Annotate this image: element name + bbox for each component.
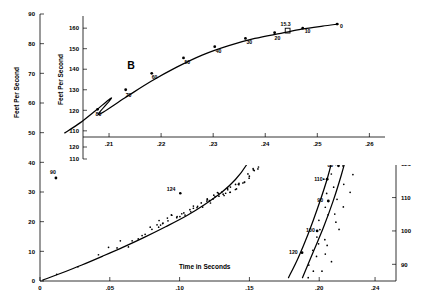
- chart-svg: 0102030405060708090901001101201301401501…: [0, 0, 433, 305]
- point-label-124: 124: [167, 186, 176, 192]
- x-tick-label: .24: [371, 285, 380, 291]
- inset-y-tick-label-120: 120: [69, 144, 80, 150]
- scatter-point: [214, 196, 216, 198]
- scatter-point: [202, 206, 204, 208]
- y-right-tick-label: 90: [401, 262, 408, 268]
- point-label-10: 10: [305, 28, 311, 34]
- scatter-point: [324, 206, 326, 208]
- scatter-point: [128, 246, 130, 248]
- scatter-point: [349, 191, 351, 193]
- inset-y-tick-label: 160: [69, 25, 80, 31]
- x-tick-label: .10: [175, 285, 184, 291]
- point-label-90: 90: [50, 169, 56, 175]
- scatter-point: [324, 239, 326, 241]
- data-point: [326, 178, 329, 181]
- chart-figure: 0102030405060708090901001101201301401501…: [0, 0, 433, 305]
- inset-x-tick-label: .24: [261, 141, 270, 147]
- scatter-point: [167, 220, 169, 222]
- scatter-point: [144, 233, 146, 235]
- scatter-point: [343, 183, 345, 185]
- scatter-point: [167, 217, 169, 219]
- y-left-tick-label: 50: [28, 130, 35, 136]
- scatter-point: [313, 270, 315, 272]
- scatter-point: [319, 229, 321, 231]
- scatter-point: [193, 205, 195, 207]
- data-point: [336, 23, 339, 26]
- scatter-point: [206, 200, 208, 202]
- point-label-50: 50: [184, 59, 190, 65]
- scatter-point: [189, 209, 191, 211]
- inset-x-tick-label: .21: [105, 141, 114, 147]
- scatter-point: [183, 212, 185, 214]
- point-label-0: 0: [340, 23, 343, 29]
- y-left-tick-label: 10: [28, 249, 35, 255]
- scatter-point: [248, 177, 250, 179]
- data-point: [55, 177, 58, 180]
- data-point: [96, 108, 99, 111]
- x-tick-label: .05: [106, 285, 115, 291]
- scatter-point: [326, 245, 328, 247]
- scatter-point: [326, 193, 328, 195]
- scatter-point: [158, 226, 160, 228]
- scatter-point: [56, 273, 58, 275]
- scatter-point: [316, 236, 318, 238]
- point-label-110: 110: [314, 176, 322, 182]
- scatter-point: [181, 213, 183, 215]
- x-tick-label: .20: [315, 285, 324, 291]
- scatter-point: [176, 216, 178, 218]
- scatter-point: [225, 192, 227, 194]
- scatter-point: [227, 188, 229, 190]
- scatter-point: [209, 200, 211, 202]
- series-a-lower: A124: [43, 146, 257, 280]
- scatter-point: [253, 170, 255, 172]
- scatter-point: [149, 226, 151, 228]
- point-label-40: 40: [216, 48, 222, 54]
- scatter-point: [193, 207, 195, 209]
- x-tick-label: 0: [38, 285, 42, 291]
- inset-chart: 110120130140150160.21.22.23.24.25.26Feet…: [53, 6, 415, 165]
- point-label-15-3: 15.3: [281, 21, 291, 27]
- y-left-tick-label: 40: [28, 160, 35, 166]
- scatter-point: [331, 261, 333, 263]
- scatter-point: [151, 229, 153, 231]
- scatter-point: [249, 175, 251, 177]
- point-label-80: 80: [96, 111, 102, 117]
- scatter-point: [119, 240, 121, 242]
- scatter-point: [184, 214, 186, 216]
- data-point: [301, 251, 304, 254]
- scatter-point: [116, 247, 118, 249]
- inset-y-tick-label: 120: [69, 108, 80, 114]
- point-label-60: 60: [152, 74, 158, 80]
- scatter-point: [333, 186, 335, 188]
- scatter-point: [77, 266, 79, 268]
- scatter-point: [131, 240, 133, 242]
- y-axis-title-left: Feet Per Second: [13, 67, 20, 118]
- scatter-point: [212, 198, 214, 200]
- inset-y-tick-label: 130: [69, 87, 80, 93]
- scatter-point: [235, 184, 237, 186]
- x-axis-title: Time in Seconds: [179, 263, 231, 270]
- data-point: [327, 200, 330, 203]
- scatter-point: [235, 189, 237, 191]
- scatter-point: [141, 235, 143, 237]
- curve-label-b: B: [127, 59, 135, 71]
- scatter-point: [230, 186, 232, 188]
- y-left-tick-label: 60: [28, 100, 35, 106]
- data-point: [273, 31, 276, 34]
- scatter-point: [324, 253, 326, 255]
- scatter-point: [336, 198, 338, 200]
- scatter-point: [352, 174, 354, 176]
- inset-y-tick-label-110: 110: [69, 156, 79, 162]
- scatter-point: [156, 224, 158, 226]
- scatter-point: [160, 224, 162, 226]
- scatter-point: [342, 165, 344, 167]
- point-label-120: 120: [289, 249, 298, 255]
- inset-x-tick-label: .23: [209, 141, 218, 147]
- scatter-point: [210, 202, 212, 204]
- scatter-point: [316, 256, 318, 258]
- scatter-point: [213, 194, 215, 196]
- scatter-point: [307, 277, 309, 279]
- point-label-20: 20: [275, 35, 281, 41]
- curve-a-lower: [43, 146, 257, 280]
- scatter-point: [190, 211, 192, 213]
